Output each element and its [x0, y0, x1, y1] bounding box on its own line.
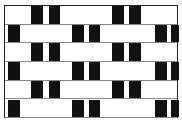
brick-row: [5, 6, 177, 24]
black-tile: [155, 62, 167, 80]
brick-row: [5, 81, 177, 99]
black-tile: [72, 25, 84, 43]
black-tile: [31, 43, 43, 61]
black-tile: [72, 62, 84, 80]
black-tile: [8, 62, 20, 80]
black-tile: [8, 100, 20, 118]
black-tile: [155, 100, 167, 118]
black-tile: [8, 25, 20, 43]
cafe-wall-figure: [4, 5, 178, 118]
brick-row: [5, 43, 177, 61]
brick-row: [5, 62, 177, 80]
black-tile: [31, 6, 43, 24]
brick-row: [5, 25, 177, 43]
black-tile: [171, 100, 179, 118]
black-tile: [89, 100, 100, 118]
brick-row: [5, 100, 177, 118]
black-tile: [72, 100, 84, 118]
black-tile: [49, 43, 60, 61]
black-tile: [129, 43, 141, 61]
black-tile: [112, 43, 124, 61]
black-tile: [112, 81, 124, 99]
black-tile: [49, 81, 60, 99]
black-tile: [171, 62, 179, 80]
black-tile: [89, 25, 100, 43]
black-tile: [112, 6, 124, 24]
black-tile: [129, 6, 141, 24]
black-tile: [155, 25, 167, 43]
black-tile: [31, 81, 43, 99]
black-tile: [129, 81, 141, 99]
black-tile: [89, 62, 100, 80]
black-tile: [171, 25, 179, 43]
black-tile: [49, 6, 60, 24]
